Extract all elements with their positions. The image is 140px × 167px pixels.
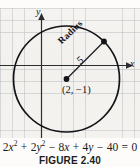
equation-equals: = bbox=[121, 141, 129, 153]
equation-term3-var: x bbox=[64, 141, 69, 153]
equation-op4: − bbox=[96, 141, 104, 153]
figure-caption: FIGURE 2.40 bbox=[0, 155, 140, 166]
radius-value-label: 5 bbox=[74, 54, 85, 66]
equation-constant: 40 bbox=[107, 141, 119, 153]
y-axis-label: y bbox=[36, 7, 40, 17]
center-coordinate-label: (2, −1) bbox=[62, 85, 91, 96]
equation-term2-exp: 2 bbox=[42, 139, 46, 148]
equation-op2: − bbox=[48, 141, 56, 153]
equation-rhs: 0 bbox=[131, 141, 137, 153]
radius-annotation-group: Radius 5 bbox=[63, 36, 117, 78]
x-axis-label: x bbox=[130, 59, 134, 69]
equation-op3: + bbox=[72, 141, 80, 153]
equation-op1: + bbox=[20, 141, 28, 153]
figure-container: y x (2, −1) Radius 5 2x2 + 2y2 − 8x + 4y… bbox=[0, 0, 140, 167]
circle-equation: 2x2 + 2y2 − 8x + 4y − 40 = 0 bbox=[0, 139, 140, 153]
equation-term4-var: y bbox=[88, 141, 93, 153]
equation-term1-exp: 2 bbox=[14, 139, 18, 148]
